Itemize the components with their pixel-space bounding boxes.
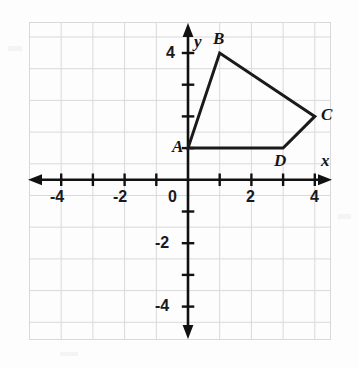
y-tick-label--4: -4 — [155, 298, 169, 314]
x-tick-label-0: 0 — [168, 189, 177, 205]
y-axis-name: y — [194, 33, 202, 50]
plot-canvas — [0, 0, 359, 368]
x-tick-label--4: -4 — [50, 189, 64, 205]
coordinate-plane-figure: y x A B C D -4 -2 0 2 4 4 -2 -4 — [0, 0, 359, 368]
x-axis — [28, 174, 332, 187]
x-tick-label-4: 4 — [310, 189, 319, 205]
y-tick-label-4: 4 — [166, 45, 175, 61]
vertex-label-a: A — [172, 138, 183, 155]
vertex-label-b: B — [213, 30, 224, 47]
y-tick-label--2: -2 — [155, 235, 169, 251]
x-tick-label-2: 2 — [246, 189, 255, 205]
x-axis-name: x — [321, 152, 330, 169]
x-tick-label--2: -2 — [113, 189, 127, 205]
vertex-label-d: D — [274, 152, 286, 169]
vertex-label-c: C — [321, 106, 332, 123]
